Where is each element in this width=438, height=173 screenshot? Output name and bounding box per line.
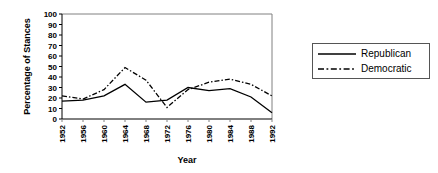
y-axis-tick-label: 30 — [48, 84, 57, 93]
x-axis-tick-label: 1952 — [58, 124, 67, 142]
y-axis-tick-label: 40 — [48, 73, 57, 82]
y-axis-tick-label: 20 — [48, 94, 57, 103]
series-line-democratic — [62, 68, 272, 108]
legend-swatch-solid — [317, 49, 357, 59]
legend-item-republican: Republican — [317, 46, 425, 61]
series-line-republican — [62, 84, 272, 112]
y-axis-tick-label: 90 — [48, 21, 57, 30]
y-axis-tick-label: 0 — [53, 115, 58, 124]
y-axis-tick-label: 60 — [48, 52, 57, 61]
chart-canvas: 0102030405060708090100Percentage of Stan… — [0, 0, 290, 173]
y-axis-tick-label: 50 — [48, 63, 57, 72]
x-axis-tick-label: 1972 — [163, 124, 172, 142]
x-axis-tick-label: 1988 — [247, 124, 256, 142]
x-axis-tick-label: 1964 — [121, 124, 130, 142]
y-axis-title: Percentage of Stances — [22, 18, 32, 115]
legend-swatch-dashdot — [317, 64, 357, 74]
y-axis-tick-label: 80 — [48, 31, 57, 40]
x-axis-tick-label: 1984 — [226, 124, 235, 142]
x-axis-title: Year — [177, 155, 197, 165]
x-axis-tick-label: 1980 — [205, 124, 214, 142]
plot-frame — [62, 14, 272, 119]
y-axis-tick-label: 100 — [44, 10, 58, 19]
x-axis-tick-label: 1956 — [79, 124, 88, 142]
plot-axes — [62, 14, 272, 119]
line-chart-figure: 0102030405060708090100Percentage of Stan… — [0, 0, 290, 173]
y-axis-tick-label: 70 — [48, 42, 57, 51]
legend-label-republican: Republican — [361, 48, 411, 59]
chart-legend: Republican Democratic — [312, 43, 430, 79]
legend-item-democratic: Democratic — [317, 61, 425, 76]
legend-label-democratic: Democratic — [361, 63, 412, 74]
y-axis-tick-label: 10 — [48, 105, 57, 114]
x-axis-tick-label: 1976 — [184, 124, 193, 142]
x-axis-tick-label: 1960 — [100, 124, 109, 142]
x-axis-tick-label: 1992 — [268, 124, 277, 142]
chart-screenshot: 0102030405060708090100Percentage of Stan… — [0, 0, 438, 173]
x-axis-tick-label: 1968 — [142, 124, 151, 142]
